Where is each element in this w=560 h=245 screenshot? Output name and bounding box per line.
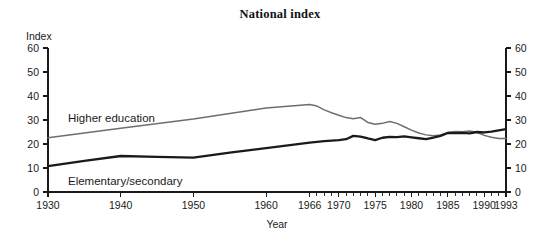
y-tick-label-left: 60 [27, 42, 39, 54]
x-tick-label: 1993 [494, 199, 518, 211]
line-chart-plot: Index 0102030405060 0102030405060 193019… [0, 0, 560, 245]
y-tick-label-left: 50 [27, 66, 39, 78]
y-tick-label-left: 40 [27, 90, 39, 102]
x-tick-label: 1930 [36, 199, 60, 211]
y-tick-label-right: 20 [515, 138, 527, 150]
y-tick-label-right: 30 [515, 114, 527, 126]
y-tick-label-right: 60 [515, 42, 527, 54]
y-tick-label-right: 10 [515, 162, 527, 174]
series-label-2: Elementary/secondary [68, 175, 183, 187]
y-tick-label-right: 40 [515, 90, 527, 102]
y-tick-label-right: 0 [515, 186, 521, 198]
x-tick-label: 1980 [400, 199, 424, 211]
x-axis-ticks: 1930194019501960196619701975198019851990… [36, 192, 518, 211]
x-tick-label: 1950 [182, 199, 206, 211]
y-tick-label-right: 50 [515, 66, 527, 78]
x-tick-label: 1990 [473, 199, 497, 211]
x-tick-label: 1940 [109, 199, 133, 211]
y-axis-title: Index [26, 30, 52, 42]
x-tick-label: 1970 [327, 199, 351, 211]
y-tick-label-left: 0 [33, 186, 39, 198]
series-label-1: Higher education [68, 112, 155, 124]
y-tick-label-left: 30 [27, 114, 39, 126]
x-tick-label: 1960 [254, 199, 278, 211]
x-tick-label: 1985 [436, 199, 460, 211]
chart-figure: National index Index 0102030405060 01020… [0, 0, 560, 245]
x-axis-title: Year [266, 218, 288, 230]
x-tick-label: 1966 [298, 199, 322, 211]
y-axis-ticks-left: 0102030405060 [27, 42, 48, 198]
y-axis-ticks-right: 0102030405060 [506, 42, 527, 198]
y-tick-label-left: 20 [27, 138, 39, 150]
y-tick-label-left: 10 [27, 162, 39, 174]
x-tick-label: 1975 [363, 199, 387, 211]
